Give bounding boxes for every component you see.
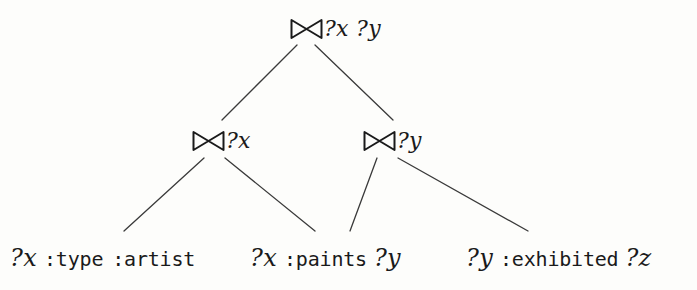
edge-root-left xyxy=(222,45,297,120)
edge-right-leaf3 xyxy=(398,158,528,231)
join-bowtie-icon xyxy=(363,130,396,152)
right-join-variables: ?y xyxy=(397,128,422,153)
leaf-triple-pattern: ?x:paints?y xyxy=(250,244,401,272)
leaf-object: :artist xyxy=(112,247,195,271)
left-join-node: ?x xyxy=(192,126,251,153)
leaf-predicate: :type xyxy=(44,247,103,271)
figure-canvas: ?x ?y ?x ?y ?x:type:artist ?x:paints?y ?… xyxy=(0,0,697,290)
leaf-triple-pattern: ?y:exhibited?z xyxy=(466,244,652,272)
leaf-triple-pattern: ?x:type:artist xyxy=(10,244,195,272)
leaf-predicate: :exhibited xyxy=(500,247,618,271)
join-bowtie-icon xyxy=(290,18,323,40)
leaf-object: ?y xyxy=(374,244,401,272)
leaf-predicate: :paints xyxy=(284,247,367,271)
edge-root-right xyxy=(315,45,393,120)
leaf-subject: ?x xyxy=(250,244,277,272)
edge-left-leaf2 xyxy=(225,158,315,231)
leaf-subject: ?y xyxy=(466,244,493,272)
edge-left-leaf1 xyxy=(124,158,204,231)
root-join-node: ?x ?y xyxy=(290,14,381,41)
join-bowtie-icon xyxy=(192,130,225,152)
right-join-node: ?y xyxy=(363,126,422,153)
leaf-object: ?z xyxy=(625,244,651,272)
edge-right-leaf2 xyxy=(350,158,377,231)
root-join-variables: ?x ?y xyxy=(324,16,381,41)
leaf-subject: ?x xyxy=(10,244,37,272)
left-join-variables: ?x xyxy=(226,128,251,153)
